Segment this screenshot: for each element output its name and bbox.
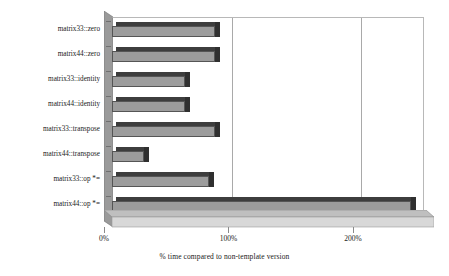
x-tick-mark: [353, 227, 354, 233]
category-label: matrix44::transpose: [0, 150, 100, 158]
bar-face: [112, 51, 215, 62]
bar-matrix44-op-: [112, 197, 411, 210]
category-label: matrix44::op *=: [0, 200, 100, 208]
category-label: matrix33::zero: [0, 25, 100, 33]
x-tick-label: 0%: [84, 234, 124, 243]
x-axis-title: % time compared to non-template version: [0, 252, 449, 261]
bar-side-face: [185, 97, 190, 112]
bar-matrix44-transpose: [112, 147, 144, 160]
bar-face: [112, 176, 209, 187]
x-tick-label: 100%: [208, 234, 248, 243]
bar-face: [112, 101, 185, 112]
bar-side-face: [209, 172, 214, 187]
bar-side-face: [215, 22, 220, 37]
bar-face: [112, 26, 215, 37]
bar-matrix44-identity: [112, 97, 185, 110]
category-label: matrix33::identity: [0, 75, 100, 83]
bar-face: [112, 126, 215, 137]
bar-chart: matrix33::zeromatrix44::zeromatrix33::id…: [0, 0, 449, 276]
x-tick-mark: [228, 227, 229, 233]
category-label: matrix44::identity: [0, 100, 100, 108]
category-label: matrix44::zero: [0, 50, 100, 58]
category-label: matrix33::transpose: [0, 125, 100, 133]
x-tick-mark: [104, 227, 105, 233]
bar-side-face: [185, 72, 190, 87]
category-label: matrix33::op *=: [0, 175, 100, 183]
bar-side-face: [144, 147, 149, 162]
bar-matrix33-identity: [112, 72, 185, 85]
bar-matrix44-zero: [112, 47, 215, 60]
bar-face: [112, 151, 144, 162]
bar-matrix33-zero: [112, 22, 215, 35]
x-tick-label: 200%: [333, 234, 373, 243]
bar-face: [112, 76, 185, 87]
bar-matrix33-op-: [112, 172, 209, 185]
bar-matrix33-transpose: [112, 122, 215, 135]
bar-side-face: [215, 47, 220, 62]
bar-side-face: [215, 122, 220, 137]
chart-floor: [104, 210, 434, 236]
